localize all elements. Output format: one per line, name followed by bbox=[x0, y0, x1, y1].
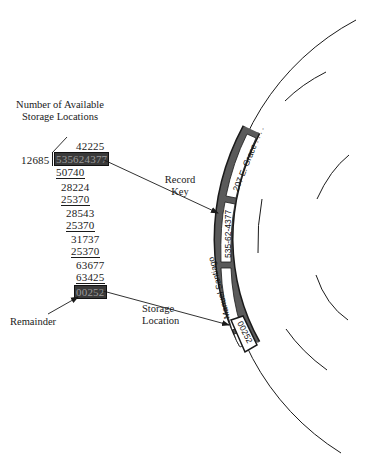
remainder-arrow bbox=[48, 297, 78, 314]
outer-disk-edge bbox=[223, 20, 356, 453]
record-key-text: 535-62-4377 bbox=[223, 210, 233, 258]
track-arc bbox=[317, 155, 349, 199]
track-arc bbox=[285, 72, 326, 101]
record-key-arrow bbox=[104, 160, 218, 213]
available-locations-pointer bbox=[52, 137, 67, 153]
storage-location-arrow bbox=[103, 291, 229, 325]
disk-diagram: 207 E. Grace . . . . 535-62-4377 Manuel … bbox=[0, 0, 366, 463]
track-arc bbox=[286, 329, 327, 370]
track-arc bbox=[258, 199, 262, 253]
track-arc bbox=[316, 275, 348, 320]
